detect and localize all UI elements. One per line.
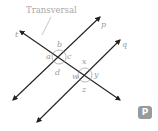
label-q: q xyxy=(122,40,127,49)
angle-w: w xyxy=(72,72,79,81)
p-badge[interactable]: P xyxy=(138,106,152,119)
angle-c: c xyxy=(67,52,72,61)
angle-b: b xyxy=(57,40,62,49)
transversal-diagram: Transversal p q t a b c d w x y z xyxy=(0,0,158,131)
label-t: t xyxy=(15,30,19,39)
angle-z: z xyxy=(81,85,87,94)
angle-y: y xyxy=(93,70,99,79)
line-p xyxy=(13,17,100,100)
title-pointer xyxy=(42,17,51,35)
angle-d: d xyxy=(55,68,60,77)
label-p: p xyxy=(101,20,106,29)
angle-circle-p xyxy=(52,50,66,64)
angle-x: x xyxy=(82,57,87,66)
angle-a: a xyxy=(46,52,51,61)
transversal-title: Transversal xyxy=(26,5,77,15)
